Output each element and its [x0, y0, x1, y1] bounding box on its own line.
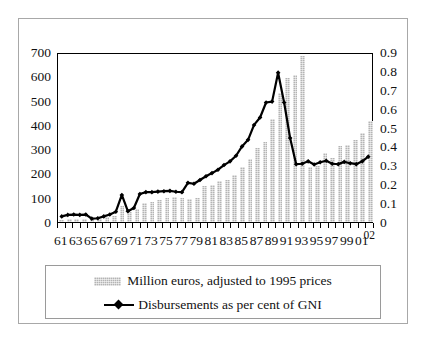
line-marker-diamond: [156, 189, 161, 194]
line-marker-diamond: [294, 162, 299, 167]
right-axis-tick-label: 0.2: [380, 178, 397, 192]
x-axis-tickmark: [260, 223, 261, 228]
line-marker-diamond: [348, 161, 353, 166]
plot-area: [57, 53, 373, 223]
x-axis-tickmark: [223, 223, 224, 228]
legend-label-line: Disbursements as per cent of GNI: [138, 298, 321, 312]
x-axis-tickmark: [65, 223, 66, 228]
x-axis-tickmark: [87, 223, 88, 228]
x-axis-tickmark: [72, 223, 73, 228]
x-axis-tickmark: [290, 223, 291, 228]
x-axis-tickmark: [125, 223, 126, 228]
x-axis-tickmark: [132, 223, 133, 228]
x-axis-tickmark: [238, 223, 239, 228]
x-axis-tickmark: [155, 223, 156, 228]
x-axis-tickmark: [110, 223, 111, 228]
right-axis-tick-label: 0.4: [380, 140, 397, 154]
legend-item-line: Disbursements as per cent of GNI: [46, 292, 380, 318]
x-axis-tickmark: [320, 223, 321, 228]
x-axis-tickmark: [200, 223, 201, 228]
x-axis-tickmark: [335, 223, 336, 228]
x-axis-tickmark: [215, 223, 216, 228]
x-axis-tickmark: [192, 223, 193, 228]
x-axis-tickmark: [80, 223, 81, 228]
x-axis-tickmark: [185, 223, 186, 228]
x-axis-tickmark: [177, 223, 178, 228]
right-axis-tick-label: 0.5: [380, 122, 397, 136]
x-axis-tickmark: [328, 223, 329, 228]
legend-item-bars: Million euros, adjusted to 1995 prices: [46, 268, 380, 294]
x-axis-tickmark: [57, 223, 58, 228]
x-axis-tickmark: [275, 223, 276, 228]
plot-block: 0100200300400500600700 00.10.20.30.40.50…: [19, 19, 409, 241]
x-axis-tickmark: [283, 223, 284, 228]
right-axis-tick-label: 0.3: [380, 159, 397, 173]
line-marker-diamond: [174, 189, 179, 194]
line-marker-diamond: [77, 213, 82, 218]
left-axis-tick-label: 500: [19, 95, 51, 109]
x-axis-tickmark: [102, 223, 103, 228]
x-axis-tickmark: [373, 223, 374, 228]
x-axis-tickmark: [343, 223, 344, 228]
x-axis-tickmark: [245, 223, 246, 228]
line-marker-diamond: [282, 100, 287, 105]
x-axis-tickmark: [350, 223, 351, 228]
legend-label-bars: Million euros, adjusted to 1995 prices: [127, 274, 332, 288]
right-axis-tick-label: 0.7: [380, 84, 397, 98]
line-marker-diamond: [59, 214, 64, 219]
right-axis-tick-label: 0: [380, 216, 387, 230]
x-axis-tickmark: [230, 223, 231, 228]
bar-swatch-icon: [94, 277, 121, 286]
line-path: [62, 73, 369, 219]
line-marker-diamond: [65, 213, 70, 218]
x-axis-tickmark: [358, 223, 359, 228]
left-axis-tick-label: 600: [19, 70, 51, 84]
line-marker-diamond: [270, 99, 275, 104]
x-axis-tickmark: [207, 223, 208, 228]
x-axis-tickmark: [365, 223, 366, 228]
line-marker-diamond: [276, 70, 281, 75]
x-axis-tickmark: [170, 223, 171, 228]
x-axis-tickmark: [268, 223, 269, 228]
left-axis-tick-label: 200: [19, 167, 51, 181]
x-axis-tick-label: 02: [358, 230, 380, 242]
line-marker-diamond: [162, 189, 167, 194]
x-axis-tickmark: [313, 223, 314, 228]
right-axis-tick-label: 0.6: [380, 103, 397, 117]
x-axis-tickmark: [162, 223, 163, 228]
x-axis-tickmark: [253, 223, 254, 228]
x-axis-tickmark: [95, 223, 96, 228]
x-axis-tickmark: [140, 223, 141, 228]
left-axis-tick-label: 0: [19, 216, 51, 230]
right-axis-tick-label: 0.9: [380, 46, 397, 60]
line-series-layer: [58, 54, 372, 222]
left-axis-tick-label: 400: [19, 119, 51, 133]
line-marker-diamond: [168, 189, 173, 194]
left-axis-tick-label: 700: [19, 46, 51, 60]
left-axis-tick-label: 100: [19, 192, 51, 206]
line-diamond-swatch-icon: [104, 300, 134, 311]
right-axis-tick-label: 0.8: [380, 65, 397, 79]
line-marker-diamond: [288, 136, 293, 141]
x-axis-tickmark: [147, 223, 148, 228]
x-axis-tickmark: [117, 223, 118, 228]
left-axis-tick-label: 300: [19, 143, 51, 157]
right-axis-tick-label: 0.1: [380, 197, 397, 211]
line-marker-diamond: [150, 190, 155, 195]
chart-legend: Million euros, adjusted to 1995 prices D…: [45, 265, 381, 319]
x-axis-tickmark: [305, 223, 306, 228]
chart-figure: 0100200300400500600700 00.10.20.30.40.50…: [18, 18, 408, 324]
line-marker-diamond: [71, 212, 76, 217]
x-axis-tickmark: [298, 223, 299, 228]
